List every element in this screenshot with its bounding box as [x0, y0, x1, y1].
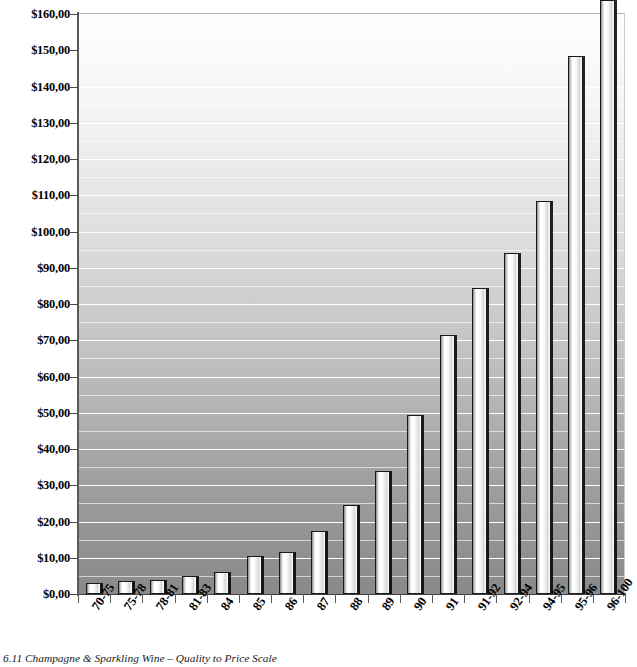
y-axis-tick — [70, 449, 78, 450]
y-axis-tick — [70, 268, 78, 269]
x-axis-tick — [496, 594, 497, 603]
x-axis-tick-label: 85 — [250, 595, 270, 614]
x-axis-tick-label: 70-75 — [89, 581, 118, 614]
y-axis-tick — [70, 123, 78, 124]
x-axis-tick — [271, 594, 272, 603]
y-axis-tick — [70, 377, 78, 378]
x-axis-tick — [142, 594, 143, 603]
x-axis-tick-label: 78-81 — [153, 581, 182, 614]
x-axis-tick-label: 95-96 — [572, 581, 601, 614]
figure-caption: 6.11 Champagne & Sparkling Wine – Qualit… — [3, 652, 277, 664]
x-axis-tick-label: 90 — [411, 595, 431, 614]
x-axis-tick-label: 87 — [314, 595, 334, 614]
x-axis-tick — [625, 594, 626, 603]
x-axis-tick-label: 86 — [282, 595, 302, 614]
x-axis-tick — [239, 594, 240, 603]
x-axis-tick-label: 91 — [443, 595, 463, 614]
y-axis-tick — [70, 340, 78, 341]
x-axis-tick — [561, 594, 562, 603]
y-axis-tick — [70, 14, 78, 15]
x-axis-tick-label: 81-83 — [186, 581, 215, 614]
x-axis-tick-label: 75-78 — [121, 581, 150, 614]
x-axis-tick-label: 94-95 — [540, 581, 569, 614]
y-axis-tick — [70, 594, 78, 595]
y-axis-tick — [70, 195, 78, 196]
y-axis-tick — [70, 304, 78, 305]
x-axis-tick — [593, 594, 594, 603]
y-axis-tick — [70, 159, 78, 160]
x-axis-tick-label: 84 — [218, 595, 238, 614]
x-axis-tick-label: 89 — [379, 595, 399, 614]
x-axis-tick — [432, 594, 433, 603]
x-axis-tick — [207, 594, 208, 603]
x-axis-tick — [464, 594, 465, 603]
x-axis-tick — [303, 594, 304, 603]
y-axis-tick — [70, 558, 78, 559]
x-axis-tick-label: 91-92 — [475, 581, 504, 614]
x-axis-tick — [335, 594, 336, 603]
y-axis-tick — [70, 522, 78, 523]
x-axis-tick — [368, 594, 369, 603]
y-axis-tick — [70, 232, 78, 233]
x-axis-tick-label: 88 — [347, 595, 367, 614]
y-axis-tick — [70, 50, 78, 51]
x-axis-tick — [529, 594, 530, 603]
x-axis-tick — [400, 594, 401, 603]
x-axis-tick-label: 96-100 — [604, 576, 637, 614]
y-axis-tick — [70, 485, 78, 486]
x-axis-tick-label: 92-94 — [507, 581, 536, 614]
x-axis-tick — [175, 594, 176, 603]
y-axis-tick — [70, 87, 78, 88]
x-axis-tick — [78, 594, 79, 603]
x-axis-tick — [110, 594, 111, 603]
y-axis-tick — [70, 413, 78, 414]
